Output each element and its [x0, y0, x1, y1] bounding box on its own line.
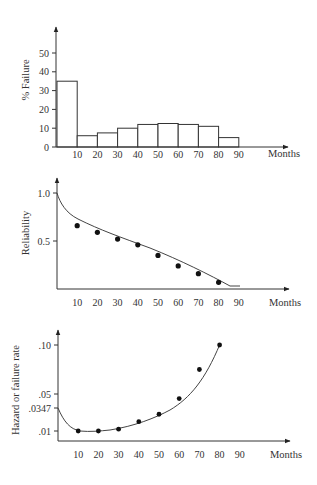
x-tick-label: 60: [174, 449, 184, 460]
x-tick-label: 50: [153, 297, 163, 308]
x-axis-label: Months: [268, 148, 300, 159]
x-tick-label: 80: [214, 297, 224, 308]
x-tick-label: 50: [154, 449, 164, 460]
reliability-chart: 0.51.0 102030405060708090 Months Reliabi…: [20, 178, 301, 308]
y-tick-label: 1.0: [38, 188, 51, 199]
data-point: [197, 367, 202, 372]
x-tick-label: 60: [173, 297, 183, 308]
x-tick-label: 40: [133, 297, 143, 308]
y-tick-label: 0: [44, 142, 49, 153]
x-tick-label: 70: [193, 297, 203, 308]
x-tick-label: 40: [133, 149, 143, 160]
y-axis-label: Reliability: [20, 210, 31, 255]
x-tick-label: 30: [113, 149, 123, 160]
data-point: [157, 412, 162, 417]
x-axis-label: Months: [270, 449, 302, 460]
y-tick-label: .0347: [29, 403, 52, 414]
x-tick-label: 10: [72, 149, 82, 160]
failure-histogram: 01020304050 102030405060708090 Months % …: [20, 27, 300, 160]
reliability-curve: [57, 193, 240, 286]
y-tick-label: 20: [39, 104, 49, 115]
data-point: [155, 253, 160, 258]
x-tick-label: 30: [113, 297, 123, 308]
x-tick-label: 40: [134, 449, 144, 460]
y-tick-label: .01: [39, 426, 52, 437]
x-tick-label: 80: [215, 449, 225, 460]
hazard-chart: .01.0347.05.10 102030405060708090 Months…: [10, 330, 302, 460]
y-tick-label: 50: [39, 48, 49, 59]
histogram-bar: [97, 133, 117, 147]
data-point: [135, 242, 140, 247]
data-point: [96, 429, 101, 434]
histogram-bar: [198, 126, 218, 147]
x-axis-label: Months: [269, 297, 301, 308]
figure: 01020304050 102030405060708090 Months % …: [0, 0, 317, 485]
hazard-curve: [58, 344, 220, 431]
x-tick-label: 90: [234, 297, 244, 308]
x-tick-label: 30: [114, 449, 124, 460]
x-tick-label: 20: [92, 149, 102, 160]
y-tick-label: 10: [39, 123, 49, 134]
data-point: [196, 271, 201, 276]
x-tick-label: 10: [73, 449, 83, 460]
data-point: [176, 263, 181, 268]
x-tick-label: 20: [93, 449, 103, 460]
histogram-bar: [219, 138, 239, 147]
data-point: [217, 343, 222, 348]
y-tick-label: 30: [39, 85, 49, 96]
histogram-bar: [178, 124, 198, 147]
x-tick-label: 80: [214, 149, 224, 160]
x-tick-label: 90: [234, 149, 244, 160]
data-point: [116, 427, 121, 432]
histogram-bar: [77, 136, 97, 147]
data-point: [75, 223, 80, 228]
y-tick-label: .10: [39, 340, 52, 351]
data-point: [177, 396, 182, 401]
histogram-bar: [158, 124, 178, 148]
histogram-bar: [118, 128, 138, 147]
x-tick-label: 70: [193, 149, 203, 160]
y-axis-label: % Failure: [20, 59, 31, 100]
y-tick-label: 0.5: [38, 236, 51, 247]
y-axis-label: Hazard or failure rate: [10, 345, 21, 435]
data-point: [95, 230, 100, 235]
data-point: [136, 419, 141, 424]
histogram-bar: [138, 124, 158, 147]
data-point: [76, 429, 81, 434]
x-tick-label: 70: [194, 449, 204, 460]
data-point: [216, 280, 221, 285]
x-tick-label: 90: [235, 449, 245, 460]
y-tick-label: 40: [39, 66, 49, 77]
x-tick-label: 10: [72, 297, 82, 308]
y-tick-label: .05: [39, 389, 52, 400]
histogram-bar: [57, 81, 77, 147]
x-tick-label: 50: [153, 149, 163, 160]
x-tick-label: 20: [92, 297, 102, 308]
x-tick-label: 60: [173, 149, 183, 160]
data-point: [115, 236, 120, 241]
